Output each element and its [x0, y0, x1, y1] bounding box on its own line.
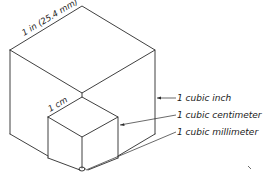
stray-mark	[248, 166, 251, 169]
label-cubic-millimeter: 1 cubic millimeter	[177, 127, 259, 137]
unit-volume-diagram: 1 in (25.4 mm) 1 cm 1 cubic inch 1 cubic…	[0, 0, 263, 172]
leader-lines	[86, 97, 176, 171]
large-cube-dimension-label: 1 in (25.4 mm)	[20, 0, 79, 38]
label-cubic-centimeter: 1 cubic centimeter	[177, 110, 263, 120]
label-cubic-inch: 1 cubic inch	[177, 93, 231, 103]
